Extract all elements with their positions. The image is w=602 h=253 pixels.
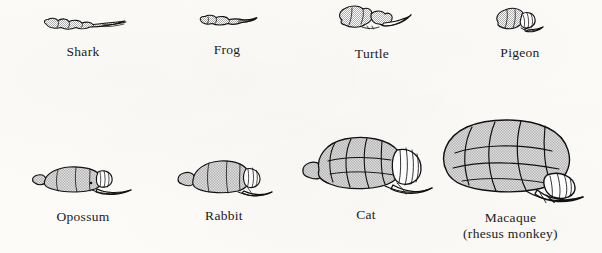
- specimen-turtle: Turtle: [316, 3, 428, 62]
- specimen-label-frog: Frog: [214, 42, 241, 58]
- specimen-label-macaque: Macaque (rhesus monkey): [463, 210, 558, 242]
- specimen-pigeon: Pigeon: [470, 6, 570, 61]
- frog-brain-illustration: [196, 10, 258, 32]
- specimen-label-rabbit: Rabbit: [205, 208, 243, 224]
- specimen-label-turtle: Turtle: [355, 46, 389, 62]
- pigeon-brain-illustration: [492, 6, 548, 36]
- specimen-opossum: Opossum: [18, 158, 148, 225]
- rabbit-brain-illustration: [174, 156, 274, 200]
- specimen-label-pigeon: Pigeon: [500, 45, 539, 61]
- specimen-label-macaque-primary: Macaque: [485, 210, 537, 225]
- specimen-shark: Shark: [23, 10, 143, 60]
- comparative-brain-figure: Shark Frog: [0, 0, 602, 253]
- opossum-brain-illustration: [28, 158, 138, 200]
- specimen-frog: Frog: [178, 10, 276, 58]
- specimen-rabbit: Rabbit: [162, 156, 286, 224]
- specimen-label-macaque-secondary: (rhesus monkey): [463, 226, 558, 242]
- cat-brain-illustration: [299, 133, 434, 199]
- specimen-label-cat: Cat: [356, 207, 376, 223]
- specimen-label-opossum: Opossum: [56, 209, 109, 225]
- macaque-brain-illustration: [433, 118, 588, 203]
- specimen-macaque: Macaque (rhesus monkey): [428, 118, 593, 242]
- specimen-cat: Cat: [296, 133, 436, 223]
- shark-brain-illustration: [38, 10, 128, 36]
- turtle-brain-illustration: [332, 3, 412, 37]
- specimen-label-shark: Shark: [67, 44, 100, 60]
